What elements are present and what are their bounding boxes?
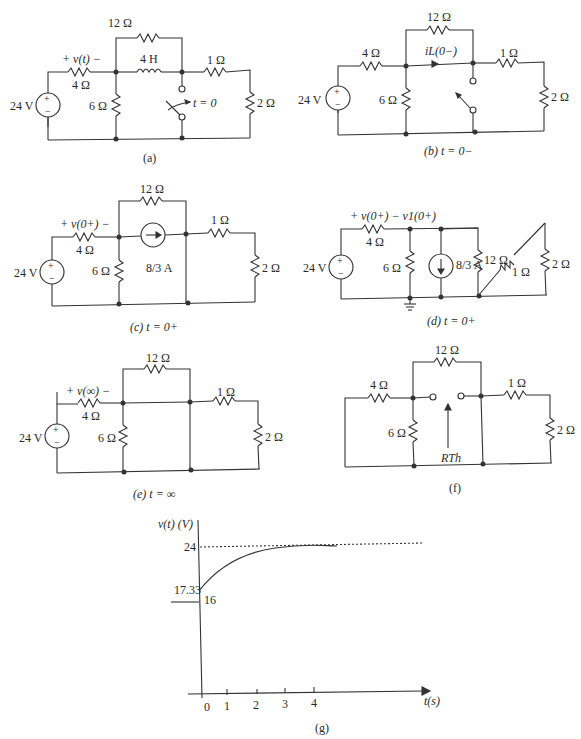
resistor-icon [402, 88, 410, 110]
label-rth-f: RTh [441, 452, 461, 464]
resistor-icon [115, 260, 123, 282]
label-r-right-series-f: 1 Ω [508, 377, 526, 389]
resistor-icon [409, 420, 417, 442]
panel-g-chart [171, 520, 430, 698]
resistor-icon [251, 255, 259, 277]
label-r-series-d: 4 Ω [366, 236, 384, 248]
plus-sign: + [337, 256, 343, 266]
label-r-series-f: 4 Ω [370, 379, 388, 391]
label-source-d: 24 V [303, 262, 326, 274]
x-tick-1: 1 [224, 700, 230, 712]
resistor-icon [204, 68, 226, 76]
minus-sign: − [45, 107, 51, 117]
plus-sign: + [44, 94, 50, 104]
label-v-d: + v(0+) − v1(0+) [350, 210, 436, 222]
label-source-b: 24 V [298, 94, 321, 106]
label-source-c: 24 V [14, 267, 37, 279]
resistor-icon [140, 197, 162, 205]
label-r-series-b: 4 Ω [362, 47, 380, 59]
label-r-right-shunt-a: 2 Ω [257, 97, 275, 109]
label-r2-d: 2 Ω [552, 258, 570, 270]
resistor-icon [254, 424, 262, 446]
panel-e-circuit [45, 365, 262, 475]
caption-e: (e) t = ∞ [133, 488, 175, 500]
panel-b-circuit [326, 26, 548, 137]
resistor-icon [496, 59, 518, 67]
resistor-icon [112, 94, 120, 116]
x-axis [188, 691, 424, 694]
label-r-right-series-b: 1 Ω [500, 47, 518, 59]
label-v-a: + v(t) − [62, 53, 101, 65]
panel-a-circuit [36, 34, 254, 142]
resistor-icon [73, 233, 95, 241]
x-tick-4: 4 [311, 697, 317, 709]
resistor-icon [427, 26, 449, 34]
y-tick-24: 24 [184, 541, 196, 553]
resistor-icon [540, 86, 548, 108]
caption-a: (a) [143, 152, 156, 164]
label-current-source-c: 8/3 A [146, 262, 172, 274]
label-r-right-shunt-f: 2 Ω [557, 424, 575, 436]
label-r1-d: 1 Ω [512, 266, 530, 278]
resistor-icon [434, 358, 456, 366]
resistor-icon [541, 249, 549, 271]
label-r-series-a: 4 Ω [72, 79, 90, 91]
label-r-series-e: 4 Ω [82, 410, 100, 422]
label-inductor-a: 4 H [140, 53, 158, 65]
label-r-top-c: 12 Ω [140, 183, 164, 195]
caption-d: (d) t = 0+ [427, 315, 476, 327]
arrow-icon [432, 61, 438, 67]
ground-icon [404, 304, 416, 310]
label-r-right-shunt-e: 2 Ω [265, 431, 283, 443]
resistor-icon [406, 251, 414, 273]
label-r-top-f: 12 Ω [435, 344, 459, 356]
label-r-top-e: 12 Ω [146, 352, 170, 364]
x-tick-3: 3 [282, 698, 288, 710]
label-current-source-d: 8/3 A [456, 259, 482, 271]
label-r-shunt-b: 6 Ω [379, 94, 397, 106]
caption-b: (b) t = 0− [424, 145, 473, 157]
label-r-shunt-e: 6 Ω [98, 432, 116, 444]
resistor-icon [246, 92, 254, 114]
label-r-right-series-e: 1 Ω [217, 386, 235, 398]
minus-sign: − [49, 274, 55, 284]
inductor-icon [137, 69, 161, 72]
resistor-icon [144, 365, 166, 373]
resistor-icon [68, 68, 90, 76]
caption-g: (g) [315, 722, 329, 734]
switch-icon [166, 101, 180, 115]
chart-ylabel: v(t) (V) [158, 518, 193, 530]
label-r12-d: 12 Ω [484, 254, 508, 266]
plus-sign: + [334, 87, 340, 97]
label-v-c: + v(0+) − [60, 218, 110, 230]
resistor-icon [504, 391, 526, 399]
y-tick-16: 16 [204, 594, 216, 606]
label-r-shunt-d: 6 Ω [383, 262, 401, 274]
label-v-e: + v(∞) − [66, 385, 110, 397]
resistor-icon [546, 418, 554, 440]
label-source-a: 24 V [10, 100, 33, 112]
label-current-b: iL(0−) [425, 45, 457, 57]
resistor-icon [137, 34, 159, 42]
plus-sign: + [53, 425, 59, 435]
label-r-top-b: 12 Ω [427, 11, 451, 23]
chart-xlabel: t(s) [424, 695, 440, 707]
resistor-icon [208, 229, 230, 237]
minus-sign: − [338, 269, 344, 279]
label-r-shunt-f: 6 Ω [388, 427, 406, 439]
label-r-right-series-c: 1 Ω [211, 214, 229, 226]
y-tick-17-33: 17.33 [174, 584, 201, 596]
label-r-shunt-c: 6 Ω [92, 265, 110, 277]
plus-sign: + [48, 261, 54, 271]
label-r-right-shunt-b: 2 Ω [551, 91, 569, 103]
minus-sign: − [54, 438, 60, 448]
circuit-diagrams [0, 0, 581, 739]
label-r-series-c: 4 Ω [76, 244, 94, 256]
resistor-icon [78, 399, 100, 407]
series-post-switch [199, 545, 337, 591]
label-r-top-a: 12 Ω [108, 17, 132, 29]
minus-sign: − [335, 100, 341, 110]
label-source-e: 24 V [19, 432, 42, 444]
x-tick-2: 2 [253, 699, 259, 711]
caption-f: (f) [449, 482, 461, 494]
